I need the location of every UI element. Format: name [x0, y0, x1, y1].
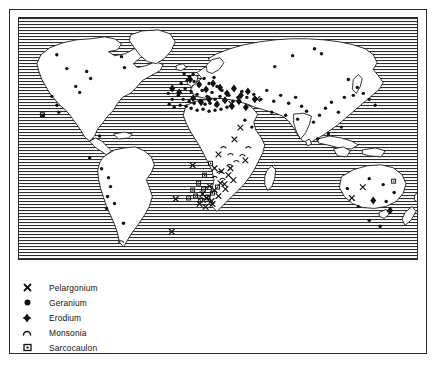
land-new-zealand-south: [402, 206, 416, 225]
legend-label-sarcocaulon: Sarcocaulon: [49, 343, 97, 353]
cross-marker-icon: [18, 281, 36, 295]
diamond-marker-icon: [18, 311, 36, 325]
land-iceland: [176, 64, 186, 71]
map-legend: Pelargonium Geranium Erodium: [18, 266, 418, 348]
scan-artifact-text: ... .. ...: [11, 0, 33, 3]
legend-item-monsonia: Monsonia: [18, 325, 87, 340]
land-caribbean: [114, 132, 133, 139]
landmasses: [37, 30, 417, 247]
map-panel: [18, 17, 418, 260]
land-madagascar: [265, 166, 276, 191]
world-map: [19, 18, 417, 259]
legend-label-pelargonium: Pelargonium: [49, 283, 98, 293]
legend-item-erodium: Erodium: [18, 310, 81, 325]
figure-frame: Pelargonium Geranium Erodium: [9, 9, 427, 354]
land-indonesia: [318, 136, 359, 149]
legend-label-erodium: Erodium: [49, 313, 81, 323]
legend-label-monsonia: Monsonia: [49, 328, 87, 338]
land-new-guinea: [362, 148, 385, 157]
square-marker-icon: [18, 341, 36, 355]
legend-item-pelargonium: Pelargonium: [18, 280, 98, 295]
dot-marker-icon: [18, 296, 36, 310]
legend-label-geranium: Geranium: [49, 298, 87, 308]
land-new-zealand-north: [414, 191, 417, 203]
legend-item-sarcocaulon: Sarcocaulon: [18, 340, 97, 355]
legend-item-geranium: Geranium: [18, 295, 87, 310]
arc-marker-icon: [18, 326, 36, 340]
land-central-america: [90, 138, 112, 155]
